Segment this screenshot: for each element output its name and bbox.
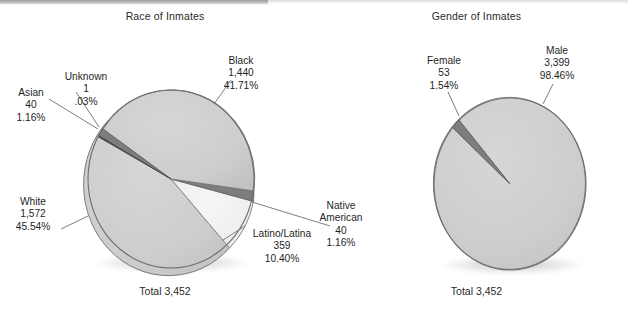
label-latino-percent: 10.40% — [243, 253, 321, 265]
label-black: Black 1,440 41.71% — [205, 55, 277, 92]
label-male: Male 3,399 98.46% — [525, 45, 589, 82]
label-asian-name: Asian — [6, 87, 56, 99]
label-black-percent: 41.71% — [205, 80, 277, 92]
label-unknown-name: Unknown — [50, 71, 122, 83]
gender-pie-slices — [433, 97, 586, 270]
label-unknown-value: 1 — [50, 83, 122, 95]
label-female-value: 53 — [412, 67, 476, 79]
gender-pie-svg — [433, 96, 589, 272]
label-male-value: 3,399 — [525, 57, 589, 69]
gender-chart-total: Total 3,452 — [330, 285, 623, 297]
label-white-value: 1,572 — [6, 208, 60, 220]
label-male-name: Male — [525, 45, 589, 57]
race-chart-total: Total 3,452 — [0, 285, 330, 297]
label-black-name: Black — [205, 55, 277, 67]
label-native-american-percent: 1.16% — [310, 237, 372, 249]
label-native-american-value: 40 — [310, 225, 372, 237]
race-pie-slices — [84, 90, 255, 276]
label-black-value: 1,440 — [205, 67, 277, 79]
race-chart-title: Race of Inmates — [0, 10, 330, 22]
race-pie-graphic — [86, 88, 256, 270]
label-native-american-name-2: American — [310, 212, 372, 224]
label-unknown-percent: .03% — [50, 96, 122, 108]
label-white-percent: 45.54% — [6, 221, 60, 233]
label-asian: Asian 40 1.16% — [6, 87, 56, 124]
label-male-percent: 98.46% — [525, 70, 589, 82]
label-asian-value: 40 — [6, 99, 56, 111]
label-female: Female 53 1.54% — [412, 55, 476, 92]
label-native-american-name-1: Native — [310, 200, 372, 212]
label-white: White 1,572 45.54% — [6, 196, 60, 233]
gender-chart-title: Gender of Inmates — [330, 10, 623, 22]
gender-pie-graphic — [433, 96, 589, 272]
label-unknown: Unknown 1 .03% — [50, 71, 122, 108]
label-female-name: Female — [412, 55, 476, 67]
label-native-american: Native American 40 1.16% — [310, 200, 372, 250]
race-pie-svg — [86, 88, 256, 270]
label-asian-percent: 1.16% — [6, 112, 56, 124]
label-white-name: White — [6, 196, 60, 208]
label-female-percent: 1.54% — [412, 80, 476, 92]
